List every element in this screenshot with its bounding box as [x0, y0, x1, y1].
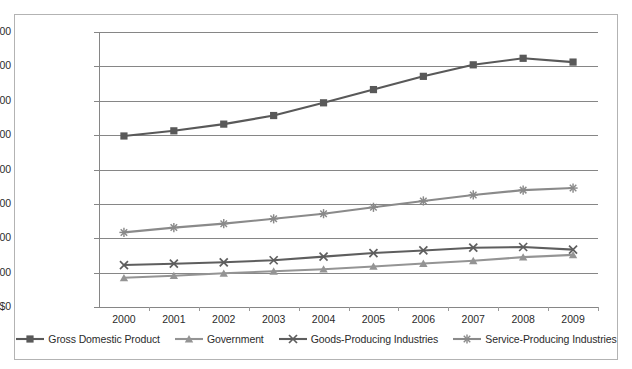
- legend-label: Service-Producing Industries: [485, 333, 616, 345]
- y-tick-label: $8,000: [0, 163, 11, 175]
- y-tick-label: $16,000: [0, 25, 11, 37]
- data-point-marker-square: [470, 61, 477, 68]
- data-point-marker-square: [170, 127, 177, 134]
- series-gross-domestic-product: [120, 55, 576, 140]
- data-point-marker-square: [27, 335, 34, 342]
- legend-item-government[interactable]: Government: [174, 333, 264, 345]
- data-point-marker-asterisk: [568, 183, 577, 192]
- series-goods-producing-industries: [120, 243, 577, 269]
- legend-swatch-triangle-icon: [174, 333, 204, 345]
- data-point-marker-square: [220, 121, 227, 128]
- legend-item-service-producing-industries[interactable]: Service-Producing Industries: [452, 333, 616, 345]
- data-point-marker-square: [520, 55, 527, 62]
- legend-label: Government: [207, 333, 264, 345]
- data-point-marker-square: [420, 73, 427, 80]
- legend-label: Gross Domestic Product: [48, 333, 160, 345]
- legend-item-gross-domestic-product[interactable]: Gross Domestic Product: [15, 333, 160, 345]
- chart-legend: Gross Domestic ProductGovernmentGoods-Pr…: [15, 327, 617, 351]
- chart-frame: $0$2,000$4,000$6,000$8,000$10,000$12,000…: [14, 14, 618, 360]
- y-tick-label: $14,000: [0, 59, 11, 71]
- data-point-marker-asterisk: [469, 190, 478, 199]
- data-point-marker-asterisk: [319, 209, 328, 218]
- data-point-marker-square: [270, 112, 277, 119]
- legend-swatch-x-icon: [278, 333, 308, 345]
- data-point-marker-square: [320, 99, 327, 106]
- y-tick-label: $0: [0, 300, 11, 312]
- data-point-marker-asterisk: [119, 228, 128, 237]
- y-tick-label: $10,000: [0, 128, 11, 140]
- data-point-marker-asterisk: [269, 214, 278, 223]
- legend-item-goods-producing-industries[interactable]: Goods-Producing Industries: [278, 333, 439, 345]
- y-tick-label: $6,000: [0, 197, 11, 209]
- y-tick-label: $12,000: [0, 94, 11, 106]
- data-point-marker-asterisk: [463, 334, 472, 343]
- series-service-producing-industries: [119, 183, 577, 237]
- data-point-marker-asterisk: [419, 196, 428, 205]
- data-point-marker-square: [120, 132, 127, 139]
- data-point-marker-asterisk: [369, 203, 378, 212]
- legend-label: Goods-Producing Industries: [311, 333, 439, 345]
- data-point-marker-square: [370, 86, 377, 93]
- data-point-marker-asterisk: [519, 186, 528, 195]
- data-point-marker-asterisk: [169, 223, 178, 232]
- plot-wrapper: $0$2,000$4,000$6,000$8,000$10,000$12,000…: [15, 15, 617, 359]
- data-point-marker-square: [569, 58, 576, 65]
- y-tick-label: $2,000: [0, 266, 11, 278]
- legend-swatch-asterisk-icon: [452, 333, 482, 345]
- legend-swatch-square-icon: [15, 333, 45, 345]
- series-plot: [15, 15, 617, 359]
- y-tick-label: $4,000: [0, 231, 11, 243]
- data-point-marker-asterisk: [219, 219, 228, 228]
